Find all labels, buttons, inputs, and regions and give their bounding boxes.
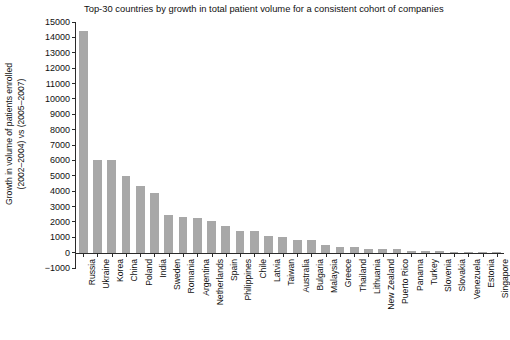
chart-title: Top-30 countries by growth in total pati… bbox=[84, 3, 504, 15]
x-tick-label-chile: Chile bbox=[258, 259, 268, 279]
bar bbox=[336, 247, 345, 253]
x-tick-label-australia: Australia bbox=[301, 259, 311, 292]
x-tick-mark bbox=[254, 253, 255, 257]
x-tick-label-lithuania: Lithuania bbox=[372, 259, 382, 294]
x-tick-label-thailand: Thailand bbox=[358, 259, 368, 292]
y-tick-label: 0 bbox=[65, 247, 70, 259]
bar bbox=[264, 236, 273, 252]
bar bbox=[136, 186, 145, 253]
x-tick-mark bbox=[183, 253, 184, 257]
x-tick-label-sweden: Sweden bbox=[172, 259, 182, 290]
y-tick-label: 9000 bbox=[50, 108, 70, 120]
bar bbox=[321, 245, 330, 252]
x-tick-label-slovenia: Slovenia bbox=[443, 259, 453, 292]
x-tick-mark bbox=[411, 253, 412, 257]
x-tick-mark bbox=[354, 253, 355, 257]
y-tick-label: 11000 bbox=[46, 78, 70, 90]
bar bbox=[278, 237, 287, 252]
x-tick-label-singapore: Singapore bbox=[500, 259, 510, 298]
x-tick-label-china: China bbox=[129, 259, 139, 281]
x-tick-label-spain: Spain bbox=[229, 259, 239, 281]
x-tick-mark bbox=[212, 253, 213, 257]
y-tick-label: 13000 bbox=[45, 47, 70, 59]
x-tick-label-new-zealand: New Zealand bbox=[386, 259, 396, 310]
bar bbox=[164, 215, 173, 253]
x-tick-mark bbox=[240, 253, 241, 257]
x-tick-label-turkey: Turkey bbox=[429, 259, 439, 285]
x-tick-mark bbox=[283, 253, 284, 257]
bar bbox=[107, 160, 116, 253]
x-tick-mark bbox=[297, 253, 298, 257]
x-tick-mark bbox=[169, 253, 170, 257]
x-tick-mark bbox=[326, 253, 327, 257]
bar bbox=[307, 240, 316, 252]
x-tick-label-poland: Poland bbox=[144, 259, 154, 286]
x-tick-mark bbox=[126, 253, 127, 257]
x-tick-mark bbox=[154, 253, 155, 257]
x-tick-mark bbox=[269, 253, 270, 257]
x-tick-mark bbox=[311, 253, 312, 257]
x-tick-label-korea: Korea bbox=[115, 259, 125, 282]
y-tick-label: 7000 bbox=[50, 139, 70, 151]
x-tick-mark bbox=[340, 253, 341, 257]
x-tick-label-bulgaria: Bulgaria bbox=[315, 259, 325, 291]
y-tick-label: 8000 bbox=[50, 124, 70, 136]
x-tick-label-philippines: Philippines bbox=[243, 259, 253, 301]
x-tick-label-argentina: Argentina bbox=[201, 259, 211, 296]
bar bbox=[207, 221, 216, 253]
y-tick-label: 2000 bbox=[50, 216, 70, 228]
bar bbox=[179, 217, 188, 252]
x-tick-mark bbox=[383, 253, 384, 257]
x-axis-labels: RussiaUkraineKoreaChinaPolandIndiaSweden… bbox=[76, 259, 504, 339]
x-tick-label-puerto-rico: Puerto Rico bbox=[400, 259, 410, 304]
x-tick-label-slovakia: Slovakia bbox=[457, 259, 467, 291]
x-tick-mark bbox=[397, 253, 398, 257]
x-tick-label-ukraine: Ukraine bbox=[101, 259, 111, 289]
y-axis-title-line-2: (2002–2004) vs (2005–2007) bbox=[15, 63, 27, 205]
x-tick-label-estonia: Estonia bbox=[486, 259, 496, 288]
plot-area: 1500014000130001200011000100009000800070… bbox=[76, 22, 504, 268]
y-tick-label: 10000 bbox=[45, 93, 70, 105]
bar bbox=[122, 176, 131, 253]
x-tick-mark bbox=[483, 253, 484, 257]
y-tick-label: 4000 bbox=[50, 185, 70, 197]
x-tick-mark bbox=[140, 253, 141, 257]
y-axis-title: Growth in volume of patients enrolled (2… bbox=[2, 0, 28, 268]
bar bbox=[350, 247, 359, 253]
x-tick-label-greece: Greece bbox=[343, 259, 353, 287]
y-tick-label: 6000 bbox=[50, 154, 70, 166]
bar bbox=[250, 231, 259, 252]
y-tick-label: 5000 bbox=[50, 170, 70, 182]
x-tick-label-netherlands: Netherlands bbox=[215, 259, 225, 305]
bar bbox=[79, 31, 88, 252]
x-tick-label-romania: Romania bbox=[186, 259, 196, 293]
bar-series bbox=[76, 22, 504, 268]
x-tick-mark bbox=[197, 253, 198, 257]
x-tick-mark bbox=[497, 253, 498, 257]
y-tick-label: 14000 bbox=[45, 31, 70, 43]
x-tick-label-india: India bbox=[158, 259, 168, 278]
x-tick-label-taiwan: Taiwan bbox=[286, 259, 296, 286]
x-tick-mark bbox=[468, 253, 469, 257]
y-tick-label: 1000 bbox=[50, 231, 70, 243]
bar bbox=[221, 226, 230, 253]
x-tick-mark bbox=[426, 253, 427, 257]
y-tick-label: 3000 bbox=[50, 201, 70, 213]
y-axis-title-line-1: Growth in volume of patients enrolled bbox=[4, 63, 14, 205]
bar bbox=[193, 218, 202, 253]
bar bbox=[293, 240, 302, 253]
bar bbox=[150, 193, 159, 253]
x-tick-mark bbox=[97, 253, 98, 257]
y-tick-label: 15000 bbox=[45, 16, 70, 28]
x-tick-mark bbox=[112, 253, 113, 257]
x-tick-label-malaysia: Malaysia bbox=[329, 259, 339, 293]
x-tick-label-venezuela: Venezuela bbox=[472, 259, 482, 299]
x-tick-label-panama: Panama bbox=[415, 259, 425, 291]
x-tick-label-russia: Russia bbox=[87, 259, 97, 285]
x-tick-label-latvia: Latvia bbox=[272, 259, 282, 282]
x-tick-mark bbox=[226, 253, 227, 257]
bar bbox=[236, 231, 245, 253]
x-tick-mark bbox=[440, 253, 441, 257]
x-tick-mark bbox=[368, 253, 369, 257]
